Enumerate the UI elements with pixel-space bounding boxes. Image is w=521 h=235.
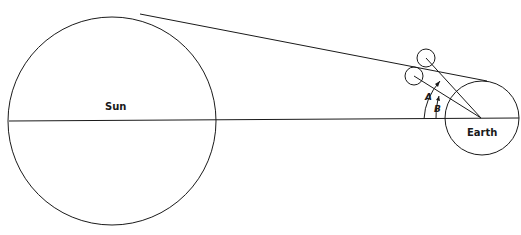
center-line [9, 118, 519, 121]
angle-b-label: B [434, 104, 441, 114]
sun-label: Sun [105, 101, 126, 112]
angle-a-label: A [424, 92, 432, 102]
sun-earth-diagram: Sun Earth A B [0, 0, 521, 235]
angle-b-arrowhead [436, 96, 440, 101]
earth-label: Earth [467, 127, 497, 138]
upper-tangent-line [140, 14, 487, 81]
